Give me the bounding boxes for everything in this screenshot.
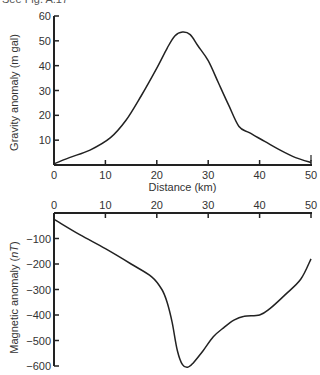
y-tick-label: 50	[39, 35, 51, 47]
charts-canvas: 10203040506001020304050Distance (km)Grav…	[0, 0, 320, 375]
x-tick-label: 20	[151, 169, 163, 181]
y-axis-title: Magnetic anomaly (nT)	[8, 241, 20, 354]
y-axis-title: Gravity anomaly (m gal)	[8, 34, 20, 151]
y-tick-label: 40	[39, 60, 51, 72]
y-tick-label: 60	[39, 10, 51, 22]
gravity-curve	[54, 32, 311, 164]
x-axis-title: Distance (km)	[149, 181, 217, 193]
gravity-anomaly-chart: 10203040506001020304050Distance (km)Grav…	[8, 10, 317, 193]
y-tick-label: −300	[26, 284, 51, 296]
y-tick-label: 30	[39, 85, 51, 97]
x-tick-label: 50	[305, 199, 317, 211]
magnetic-anomaly-chart: −100−200−300−400−500−60001020304050Magne…	[8, 199, 317, 372]
x-tick-label: 10	[99, 169, 111, 181]
y-tick-label: −400	[26, 309, 51, 321]
x-tick-label: 30	[202, 199, 214, 211]
x-tick-label: 40	[253, 199, 265, 211]
magnetic-curve	[54, 219, 311, 367]
x-tick-label: 10	[99, 199, 111, 211]
y-tick-label: −500	[26, 335, 51, 347]
y-tick-label: −600	[26, 360, 51, 372]
y-tick-label: −100	[26, 233, 51, 245]
x-tick-label: 20	[151, 199, 163, 211]
x-tick-label: 50	[305, 169, 317, 181]
y-tick-label: 20	[39, 109, 51, 121]
x-tick-label: 0	[51, 199, 57, 211]
x-tick-label: 30	[202, 169, 214, 181]
x-tick-label: 40	[253, 169, 265, 181]
y-tick-label: −200	[26, 258, 51, 270]
x-tick-label: 0	[51, 169, 57, 181]
y-tick-label: 10	[39, 134, 51, 146]
